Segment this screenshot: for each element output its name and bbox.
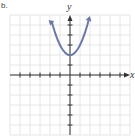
- x-axis-label: x: [130, 69, 134, 80]
- y-axis-arrow-icon: [68, 15, 73, 21]
- y-axis-label: y: [67, 1, 71, 12]
- coordinate-plane: [0, 0, 135, 138]
- curve-arrow-icon: [86, 16, 92, 22]
